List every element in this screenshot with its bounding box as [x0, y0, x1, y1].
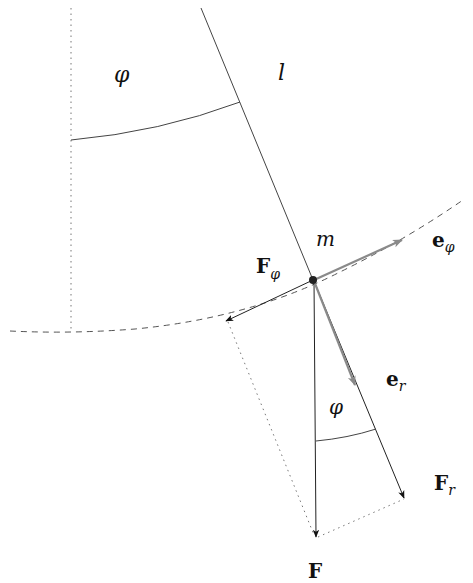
mass-label: m	[316, 227, 335, 251]
dotted-projection-left	[228, 322, 314, 535]
pendulum-rod	[201, 8, 313, 280]
angle-arc-bottom	[316, 429, 376, 441]
force-phi-label: Fφ	[256, 254, 280, 282]
dotted-projection-bottom	[318, 499, 404, 537]
angle-arc-top	[71, 102, 240, 140]
force-tangential-arrow	[226, 280, 313, 321]
force-gravity-arrow	[314, 281, 316, 537]
unit-phi-label: eφ	[432, 228, 455, 255]
force-gravity-label: F	[308, 559, 322, 583]
angle-label-top: φ	[114, 62, 130, 87]
trajectory-arc	[10, 200, 463, 332]
unit-r-label: er	[386, 367, 407, 394]
unit-vector-r-arrow	[314, 281, 355, 385]
pendulum-diagram: φ l m Fφ eφ er φ Fr F	[0, 0, 473, 583]
angle-label-bottom: φ	[329, 395, 343, 419]
force-r-label: Fr	[434, 471, 456, 498]
mass-point	[309, 276, 317, 284]
length-label: l	[278, 60, 285, 85]
